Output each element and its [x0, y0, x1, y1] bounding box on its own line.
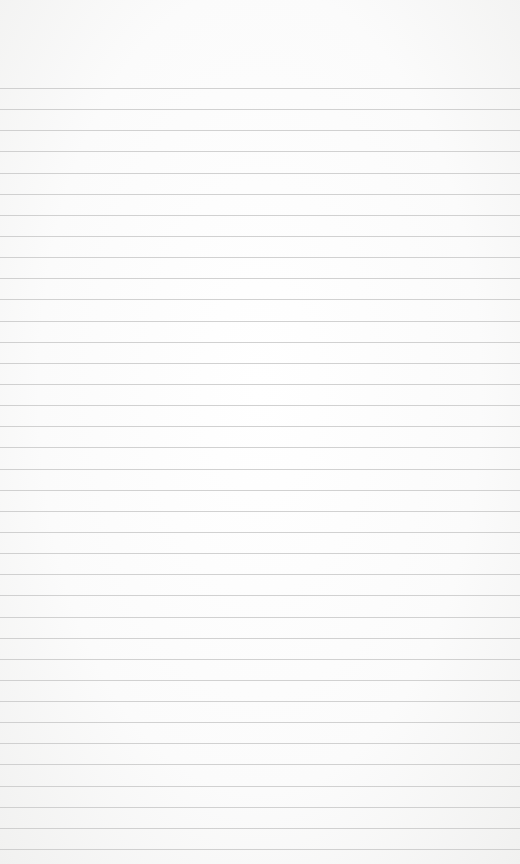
ruled-line: [0, 638, 520, 639]
ruled-line: [0, 88, 520, 89]
ruled-line: [0, 743, 520, 744]
ruled-line: [0, 532, 520, 533]
ruled-line: [0, 278, 520, 279]
ruled-line: [0, 109, 520, 110]
ruled-line: [0, 764, 520, 765]
ruled-line: [0, 151, 520, 152]
ruled-line: [0, 680, 520, 681]
ruled-line: [0, 342, 520, 343]
ruled-line: [0, 384, 520, 385]
ruled-line: [0, 447, 520, 448]
ruled-line: [0, 617, 520, 618]
lined-paper-sheet: [0, 0, 520, 864]
ruled-line: [0, 722, 520, 723]
ruled-line: [0, 574, 520, 575]
ruled-line: [0, 173, 520, 174]
ruled-line: [0, 236, 520, 237]
ruled-line: [0, 595, 520, 596]
ruled-line: [0, 807, 520, 808]
ruled-line: [0, 405, 520, 406]
ruled-line: [0, 701, 520, 702]
ruled-line: [0, 321, 520, 322]
ruled-line: [0, 828, 520, 829]
ruled-line: [0, 257, 520, 258]
ruled-line: [0, 490, 520, 491]
ruled-line: [0, 849, 520, 850]
ruled-line: [0, 426, 520, 427]
ruled-line: [0, 130, 520, 131]
ruled-line: [0, 659, 520, 660]
ruled-line: [0, 469, 520, 470]
ruled-line: [0, 511, 520, 512]
ruled-line: [0, 194, 520, 195]
ruled-line: [0, 786, 520, 787]
ruled-line: [0, 363, 520, 364]
ruled-line: [0, 215, 520, 216]
ruled-line: [0, 553, 520, 554]
ruled-lines: [0, 0, 520, 864]
ruled-line: [0, 299, 520, 300]
